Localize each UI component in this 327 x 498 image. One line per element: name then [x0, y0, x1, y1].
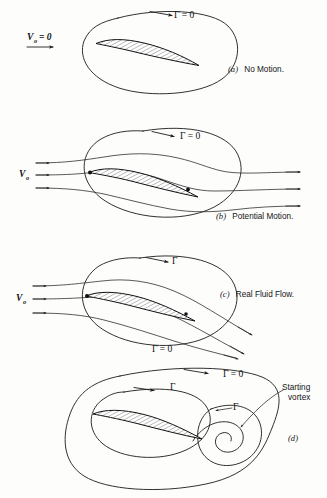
- streamline-exit-arrow-lower-c: [224, 355, 238, 359]
- caption-b: (b) Potential Motion.: [216, 211, 293, 221]
- circuit-direction-arrow-a: [150, 12, 172, 16]
- circulation-figure: Γ = 0 V o = 0 (a) No Motion. Γ = 0 V o (…: [0, 0, 327, 498]
- gamma-airfoil-label-d: Γ: [170, 382, 176, 392]
- airfoil-hatching-b: [89, 169, 198, 197]
- stagnation-point-trailing-c: [184, 312, 188, 316]
- panel-a: [27, 11, 238, 93]
- velocity-subscript-a: o: [34, 37, 37, 44]
- starting-vortex-annotation-line2: vortex: [288, 393, 310, 402]
- airfoil-hatching-c: [86, 292, 195, 321]
- gamma-label-c: Γ: [172, 256, 178, 266]
- streamline-lower-c: [33, 313, 236, 358]
- velocity-subscript-b: o: [26, 174, 29, 181]
- caption-text-a: No Motion.: [244, 65, 284, 74]
- caption-marker-a: (a): [228, 64, 238, 74]
- caption-text-b: Potential Motion.: [232, 212, 293, 221]
- gamma-zero-label-d: Γ = 0: [223, 369, 244, 379]
- gamma-zero-label-c: Γ = 0: [152, 344, 173, 354]
- stagnation-point-trailing-b: [186, 188, 190, 192]
- velocity-symbol-c: V: [16, 293, 23, 303]
- circuit-direction-arrow-c: [146, 258, 168, 263]
- freestream-velocity-label-b: V o: [19, 169, 29, 181]
- caption-a: (a) No Motion.: [228, 64, 284, 74]
- freestream-velocity-label-a: V o = 0: [27, 32, 52, 44]
- caption-d: (d): [288, 433, 298, 443]
- starting-vortex-annotation-line1: Starting: [282, 383, 311, 392]
- velocity-value-a: = 0: [39, 32, 52, 42]
- vortex-circuit-direction-arrow-d: [216, 408, 232, 411]
- velocity-symbol-a: V: [27, 32, 34, 42]
- vortex-circuit-contour-d: [198, 405, 262, 465]
- starting-vortex-spiral-d: [193, 422, 243, 452]
- streamline-lower-b: [36, 188, 300, 212]
- velocity-subscript-c: o: [23, 298, 26, 305]
- streamline-upper-b: [36, 154, 300, 173]
- airfoil-hatching-d: [93, 410, 202, 439]
- fluid-circuit-contour-c: [82, 256, 237, 346]
- stagnation-point-leading-b: [88, 171, 92, 175]
- velocity-symbol-b: V: [19, 169, 26, 179]
- outer-circuit-direction-arrow-d: [184, 370, 208, 374]
- panel-b: [36, 128, 300, 217]
- streamline-exit-arrow-middle-c: [230, 346, 244, 354]
- stagnation-point-leading-c: [85, 294, 89, 298]
- gamma-vortex-label-d: Γ: [233, 402, 239, 412]
- panel-c: [33, 256, 252, 359]
- caption-marker-c: (c): [220, 289, 230, 299]
- circuit-direction-arrow-b: [152, 132, 174, 137]
- streamline-exit-arrow-upper-c: [238, 327, 252, 335]
- gamma-label-b: Γ = 0: [180, 131, 201, 141]
- caption-text-c: Real Fluid Flow.: [236, 290, 294, 299]
- caption-marker-b: (b): [216, 211, 226, 221]
- caption-c: (c) Real Fluid Flow.: [220, 289, 294, 299]
- figure-canvas: Γ = 0 V o = 0 (a) No Motion. Γ = 0 V o (…: [0, 0, 327, 498]
- gamma-label-a: Γ = 0: [174, 10, 195, 20]
- freestream-velocity-label-c: V o: [16, 293, 26, 305]
